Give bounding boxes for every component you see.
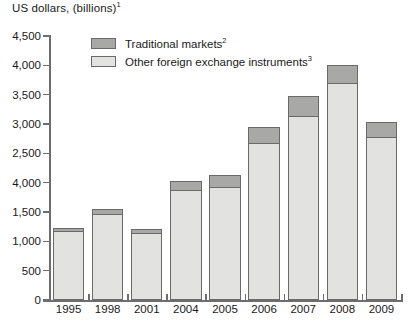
stacked-bar-chart: US dollars, (billions)1 4,5004,0003,5003…: [0, 0, 412, 326]
legend-footnote-marker: 3: [308, 54, 312, 63]
x-axis-tick: [88, 294, 90, 301]
x-axis-tick: [49, 294, 51, 301]
y-axis-label: 4,000: [3, 59, 41, 71]
x-axis-tick: [284, 294, 286, 301]
x-axis-label: 2008: [330, 303, 356, 315]
bar-segment-other-foreign-exchange-instruments: [170, 190, 201, 300]
legend-swatch: [91, 56, 116, 67]
y-axis-label: 1,000: [3, 235, 41, 247]
bar-segment-traditional-markets: [53, 228, 84, 232]
x-axis-label: 2004: [173, 303, 199, 315]
chart-legend: Traditional markets2Other foreign exchan…: [91, 36, 321, 72]
legend-label-text: Traditional markets: [125, 38, 222, 50]
y-axis-label: 3,000: [3, 118, 41, 130]
bar-group: [366, 36, 397, 300]
bar-segment-traditional-markets: [366, 122, 397, 138]
y-axis-label: 1,500: [3, 206, 41, 218]
bar-group: [209, 36, 240, 300]
bar-group: [288, 36, 319, 300]
x-axis-tick: [401, 294, 403, 301]
bar-segment-other-foreign-exchange-instruments: [131, 233, 162, 300]
x-axis-tick: [205, 294, 207, 301]
x-axis-label: 2001: [134, 303, 160, 315]
bar-group: [131, 36, 162, 300]
x-axis-tick: [245, 294, 247, 301]
x-axis-label: 1998: [95, 303, 121, 315]
bar-segment-other-foreign-exchange-instruments: [92, 214, 123, 300]
bar-group: [327, 36, 358, 300]
legend-item: Other foreign exchange instruments3: [91, 54, 321, 69]
legend-label: Other foreign exchange instruments3: [125, 56, 312, 68]
bar-segment-other-foreign-exchange-instruments: [288, 116, 319, 300]
x-axis-line: [43, 300, 403, 302]
bar-group: [248, 36, 279, 300]
x-axis-label: 2006: [251, 303, 277, 315]
y-axis-label: 2,500: [3, 147, 41, 159]
bar-group: [53, 36, 84, 300]
chart-title-footnote-marker: 1: [116, 0, 120, 9]
bar-segment-other-foreign-exchange-instruments: [327, 83, 358, 300]
bar-group: [92, 36, 123, 300]
x-axis-label: 2005: [212, 303, 238, 315]
bar-segment-other-foreign-exchange-instruments: [366, 137, 397, 300]
bar-segment-traditional-markets: [170, 181, 201, 190]
bar-segment-traditional-markets: [131, 229, 162, 234]
legend-label: Traditional markets2: [125, 38, 227, 50]
bar-segment-other-foreign-exchange-instruments: [53, 231, 84, 300]
legend-swatch: [91, 38, 116, 49]
x-axis-tick: [166, 294, 168, 301]
legend-item: Traditional markets2: [91, 36, 321, 51]
bar-segment-traditional-markets: [327, 65, 358, 84]
legend-footnote-marker: 2: [222, 36, 226, 45]
bar-segment-traditional-markets: [248, 127, 279, 143]
plot-area: [49, 36, 401, 300]
bar-segment-other-foreign-exchange-instruments: [209, 187, 240, 300]
bar-segment-traditional-markets: [209, 175, 240, 188]
bar-segment-traditional-markets: [288, 96, 319, 117]
x-axis-tick: [323, 294, 325, 301]
x-axis-label: 2009: [369, 303, 395, 315]
y-axis-label: 3,500: [3, 89, 41, 101]
x-axis-label: 2007: [290, 303, 316, 315]
x-axis-tick: [127, 294, 129, 301]
bar-segment-traditional-markets: [92, 209, 123, 215]
legend-label-text: Other foreign exchange instruments: [125, 56, 308, 68]
y-axis-label: 0: [3, 294, 41, 306]
bar-group: [170, 36, 201, 300]
y-axis-label: 500: [3, 265, 41, 277]
y-axis-label: 4,500: [3, 30, 41, 42]
x-axis-tick: [362, 294, 364, 301]
y-axis-labels: 4,5004,0003,5003,0002,5004,0001,5001,000…: [0, 0, 41, 326]
x-axis-label: 1995: [56, 303, 82, 315]
y-axis-label: 4,000: [3, 177, 41, 189]
bar-segment-other-foreign-exchange-instruments: [248, 143, 279, 300]
